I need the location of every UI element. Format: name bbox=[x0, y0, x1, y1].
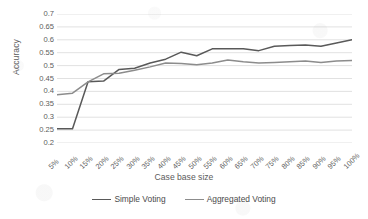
x-tick-label: 25% bbox=[109, 154, 126, 171]
legend-label: Aggregated Voting bbox=[207, 194, 276, 204]
x-tick-label: 95% bbox=[326, 154, 343, 171]
series-lines bbox=[57, 40, 352, 129]
x-tick-label: 100% bbox=[342, 151, 362, 171]
x-tick-label: 15% bbox=[78, 154, 95, 171]
x-tick-label: 60% bbox=[217, 154, 234, 171]
x-axis-title: Case base size bbox=[0, 172, 368, 182]
x-axis-tick-labels: 5%10%15%20%25%30%35%40%45%50%55%60%65%70… bbox=[57, 145, 352, 171]
x-tick-label: 40% bbox=[155, 154, 172, 171]
legend-item[interactable]: Aggregated Voting bbox=[185, 194, 276, 204]
y-tick-label: 0.45 bbox=[39, 75, 54, 83]
x-tick-label: 85% bbox=[295, 154, 312, 171]
legend-line-swatch bbox=[185, 199, 204, 200]
y-tick-label: 0.55 bbox=[39, 49, 54, 57]
y-tick-label: 0.5 bbox=[43, 62, 54, 70]
x-tick-label: 55% bbox=[202, 154, 219, 171]
plot-svg bbox=[57, 14, 352, 143]
x-tick-label: 20% bbox=[93, 154, 110, 171]
x-tick-label: 5% bbox=[47, 157, 61, 171]
x-tick-label: 90% bbox=[311, 154, 328, 171]
x-tick-label: 75% bbox=[264, 154, 281, 171]
y-tick-label: 0.3 bbox=[43, 113, 54, 121]
plot-area bbox=[57, 14, 352, 143]
x-tick-label: 30% bbox=[124, 154, 141, 171]
x-tick-label: 80% bbox=[280, 154, 297, 171]
x-tick-label: 35% bbox=[140, 154, 157, 171]
gridlines bbox=[57, 14, 352, 143]
x-tick-label: 45% bbox=[171, 154, 188, 171]
y-tick-label: 0.65 bbox=[39, 23, 54, 31]
legend-label: Simple Voting bbox=[114, 194, 165, 204]
x-tick-label: 65% bbox=[233, 154, 250, 171]
y-tick-label: 0.35 bbox=[39, 100, 54, 108]
y-tick-label: 0.2 bbox=[43, 139, 54, 147]
y-tick-label: 0.25 bbox=[39, 126, 54, 134]
series-line bbox=[57, 60, 352, 95]
accuracy-line-chart: Accuracy 0.70.650.60.550.50.450.40.350.3… bbox=[0, 0, 368, 219]
y-tick-label: 0.7 bbox=[43, 10, 54, 18]
chart-legend: Simple VotingAggregated Voting bbox=[0, 194, 368, 204]
y-axis-tick-labels: 0.70.650.60.550.50.450.40.350.30.250.2 bbox=[28, 10, 54, 147]
y-tick-label: 0.4 bbox=[43, 87, 54, 95]
legend-line-swatch bbox=[92, 199, 111, 200]
y-axis-title: Accuracy bbox=[11, 27, 21, 87]
x-tick-label: 70% bbox=[248, 154, 265, 171]
series-line bbox=[57, 40, 352, 129]
legend-item[interactable]: Simple Voting bbox=[92, 194, 165, 204]
x-tick-label: 10% bbox=[62, 154, 79, 171]
x-tick-label: 50% bbox=[186, 154, 203, 171]
y-tick-label: 0.6 bbox=[43, 36, 54, 44]
